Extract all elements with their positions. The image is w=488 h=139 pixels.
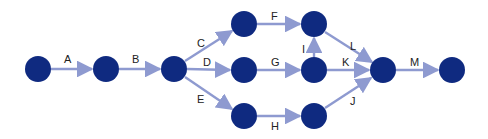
node-1	[25, 56, 51, 82]
label-c: C	[197, 37, 205, 49]
label-l: L	[350, 40, 356, 52]
edge-d	[187, 69, 230, 70]
node-3	[161, 56, 187, 82]
node-10	[370, 57, 396, 83]
node-11	[439, 57, 465, 83]
label-h: H	[271, 120, 279, 132]
node-6	[231, 103, 257, 129]
label-m: M	[410, 56, 419, 68]
label-j: J	[350, 95, 356, 107]
label-e: E	[197, 93, 204, 105]
label-a: A	[64, 53, 72, 65]
node-9	[301, 103, 327, 129]
node-7	[301, 11, 327, 37]
network-diagram: A B C D E F G H I J K L M	[0, 0, 488, 139]
node-2	[93, 56, 119, 82]
edge-e	[185, 77, 232, 109]
label-k: K	[342, 56, 350, 68]
label-g: G	[271, 56, 280, 68]
label-i: I	[302, 43, 305, 55]
edge-j	[325, 78, 371, 108]
label-f: F	[271, 10, 278, 22]
node-8	[301, 57, 327, 83]
label-d: D	[203, 56, 211, 68]
node-5	[231, 57, 257, 83]
node-4	[231, 11, 257, 37]
label-b: B	[132, 53, 139, 65]
